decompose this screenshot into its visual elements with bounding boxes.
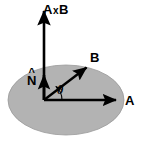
angle-theta-label: θ: [57, 84, 63, 96]
vector-axb-label-a: A: [43, 2, 52, 17]
vector-b-label: B: [90, 51, 99, 64]
vector-n-hat-label: ^ N: [27, 70, 36, 87]
diagram-canvas: [0, 0, 141, 144]
vector-axb-label: AxB: [43, 3, 68, 16]
vector-axb-label-b: B: [59, 2, 68, 17]
cross-product-diagram: AxB ^ N B A θ: [0, 0, 141, 144]
vector-a-label: A: [125, 94, 134, 107]
vector-n-hat-label-text: N: [27, 75, 36, 87]
